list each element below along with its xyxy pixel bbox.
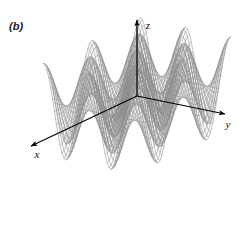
- surface-plot: x y z: [0, 0, 247, 247]
- axis-label-y: y: [225, 118, 231, 130]
- figure-panel-b: (b) x y z: [0, 0, 247, 247]
- axis-label-x: x: [34, 148, 40, 160]
- axis-label-z: z: [145, 19, 151, 31]
